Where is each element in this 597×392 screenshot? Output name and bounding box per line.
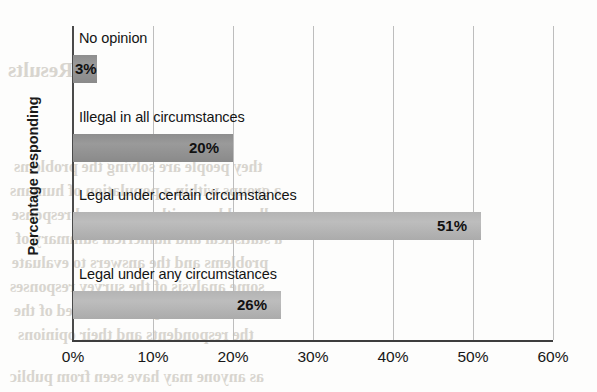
- y-axis-title: Percentage responding: [25, 51, 41, 301]
- bar-value-label: 20%: [189, 139, 219, 156]
- category-label: Legal under certain circumstances: [79, 187, 297, 203]
- gridline: [553, 26, 554, 340]
- bar: [73, 212, 481, 240]
- category-label: No opinion: [79, 30, 147, 46]
- x-axis-tick-label: 40%: [358, 348, 428, 366]
- x-axis-tick-label: 20%: [198, 348, 268, 366]
- gridline: [393, 26, 394, 340]
- bar-chart: Percentage responding No opinion3%Illega…: [0, 0, 597, 392]
- x-axis-tick-label: 50%: [438, 348, 508, 366]
- plot-area: No opinion3%Illegal in all circumstances…: [73, 26, 553, 340]
- x-axis-tick-label: 60%: [518, 348, 588, 366]
- x-axis-tick-label: 0%: [38, 348, 108, 366]
- gridline: [473, 26, 474, 340]
- bar-value-label: 51%: [437, 217, 467, 234]
- x-axis-tick-label: 30%: [278, 348, 348, 366]
- x-axis-line: [72, 340, 553, 342]
- gridline: [313, 26, 314, 340]
- category-label: Legal under any circumstances: [79, 266, 277, 282]
- bar-value-label: 3%: [75, 60, 97, 77]
- x-axis-tick-label: 10%: [118, 348, 188, 366]
- bar-value-label: 26%: [237, 296, 267, 313]
- chart-page: Resultsthey people are solving the probl…: [0, 0, 597, 392]
- category-label: Illegal in all circumstances: [79, 109, 245, 125]
